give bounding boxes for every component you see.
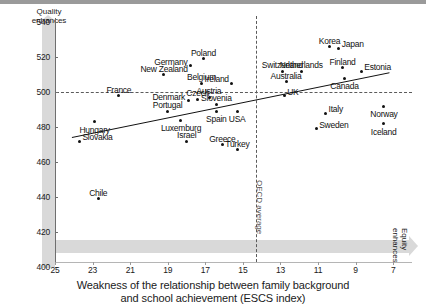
x-axis-line	[55, 262, 412, 263]
y-tick-label-520: 520	[20, 52, 50, 62]
data-point-label: Japan	[342, 39, 364, 49]
data-point-label: Canada	[330, 81, 358, 91]
data-point-label: Ireland	[205, 74, 229, 84]
data-point-label: Chile	[89, 188, 107, 198]
data-point[interactable]	[230, 82, 233, 85]
data-point-label: Turkey	[225, 139, 249, 149]
data-point-label: Italy	[329, 104, 343, 114]
data-point-label: Poland	[191, 48, 216, 58]
y-tick-label-440: 440	[20, 192, 50, 202]
x-tick-mark-13	[280, 262, 281, 265]
x-tick-mark-21	[130, 262, 131, 265]
y-tick-label-480: 480	[20, 122, 50, 132]
data-point-label: Norway	[370, 109, 397, 119]
data-point[interactable]	[78, 140, 81, 143]
data-point-label: Sweden	[319, 120, 348, 130]
x-tick-mark-19	[168, 262, 169, 265]
data-point-label: Korea	[319, 36, 340, 46]
x-tick-mark-9	[356, 262, 357, 265]
x-tick-mark-11	[318, 262, 319, 265]
y-tick-mark-420	[55, 232, 58, 233]
x-tick-mark-15	[243, 262, 244, 265]
data-point-label: Iceland	[371, 127, 397, 137]
data-point[interactable]	[215, 110, 218, 113]
data-point[interactable]	[360, 70, 363, 73]
data-point-label: Spain	[206, 114, 227, 124]
data-point-label: USA	[229, 114, 246, 124]
pisa-scatter-chart: Quality enhances Equity enhances Aggrega…	[0, 0, 426, 304]
data-point-label: Slovenia	[201, 93, 232, 103]
y-tick-mark-440	[55, 197, 58, 198]
y-tick-mark-500	[55, 92, 58, 93]
x-axis-title-line2: and school achievement (ESCS index)	[0, 292, 426, 304]
x-tick-mark-23	[93, 262, 94, 265]
y-tick-mark-540	[55, 22, 58, 23]
y-tick-label-500: 500	[20, 87, 50, 97]
data-point[interactable]	[283, 94, 286, 97]
x-tick-label-19: 19	[156, 265, 180, 275]
y-tick-label-540: 540	[20, 17, 50, 27]
x-tick-label-23: 23	[81, 265, 105, 275]
data-point-label: Denmark	[152, 92, 185, 102]
data-point-label: Estonia	[364, 62, 391, 72]
x-axis-title-line1: Weakness of the relationship between fam…	[0, 279, 426, 292]
data-point-label: Israel	[177, 130, 196, 140]
data-point[interactable]	[343, 77, 346, 80]
x-tick-label-21: 21	[118, 265, 142, 275]
x-tick-label-7: 7	[381, 265, 405, 275]
data-point[interactable]	[236, 110, 239, 113]
y-tick-mark-460	[55, 162, 58, 163]
y-tick-label-460: 460	[20, 157, 50, 167]
data-point[interactable]	[324, 112, 327, 115]
x-tick-label-11: 11	[306, 265, 330, 275]
data-point-label: Netherlands	[280, 60, 323, 70]
data-point[interactable]	[337, 47, 340, 50]
x-tick-label-9: 9	[344, 265, 368, 275]
x-axis-title: Weakness of the relationship between fam…	[0, 279, 426, 304]
x-tick-label-17: 17	[193, 265, 217, 275]
y-tick-mark-480	[55, 127, 58, 128]
y-tick-mark-520	[55, 57, 58, 58]
data-point-label: Finland	[329, 57, 355, 67]
data-point-label: Portugal	[153, 100, 183, 110]
data-point-label: Australia	[271, 71, 302, 81]
data-point[interactable]	[315, 127, 318, 130]
x-tick-mark-17	[205, 262, 206, 265]
x-tick-label-15: 15	[231, 265, 255, 275]
y-tick-label-420: 420	[20, 227, 50, 237]
data-point-label: France	[106, 85, 131, 95]
data-point-label: UK	[287, 87, 298, 97]
x-tick-label-25: 25	[43, 265, 67, 275]
data-point-label: Hungary	[79, 125, 109, 135]
x-tick-mark-25	[55, 262, 56, 265]
x-tick-mark-7	[393, 262, 394, 265]
data-point-label: Germany	[154, 57, 187, 67]
data-point[interactable]	[382, 105, 385, 108]
top-divider-bar	[0, 0, 426, 4]
x-tick-label-13: 13	[268, 265, 292, 275]
